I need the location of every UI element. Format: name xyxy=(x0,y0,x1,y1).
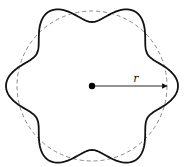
diagram-canvas: r xyxy=(0,0,186,167)
center-dot xyxy=(89,83,95,89)
radius-label: r xyxy=(133,72,139,85)
